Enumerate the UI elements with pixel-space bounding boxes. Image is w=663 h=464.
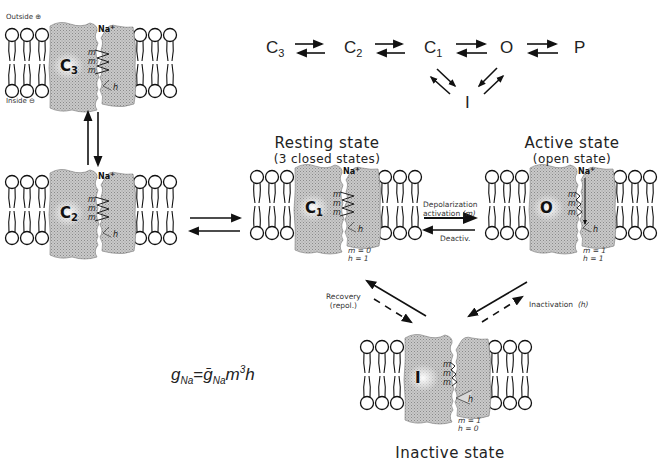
m-gate-label: m	[88, 48, 96, 57]
deactivation-label: Deactiv.	[440, 234, 470, 243]
channel-i: Immmh	[361, 334, 532, 424]
channel-c1: C1mmmhNa+	[251, 164, 422, 254]
m-gate-label: m	[88, 204, 96, 213]
depolarization-label: Depolarization activation (m)	[423, 200, 478, 218]
m-gate-label: m	[88, 66, 96, 75]
m-gate-label: m	[568, 208, 576, 217]
m-gate-label: m	[88, 195, 96, 204]
recovery-label: Recovery (repol.)	[326, 292, 361, 310]
channel-state-label: I	[415, 369, 421, 387]
inactivation-arrows	[469, 282, 527, 322]
active-state-subtitle: (open state)	[507, 152, 637, 166]
h-gate-label: h	[593, 225, 598, 234]
h-gate-label: h	[358, 225, 363, 234]
channel-c2: C2mmmhNa+	[6, 169, 177, 259]
scheme-state-c3: C3	[266, 38, 284, 59]
m-gate-label: m	[443, 369, 451, 378]
m-gate-label: m	[568, 199, 576, 208]
gate-values-i: m = 1h = 0	[458, 417, 481, 433]
gate-values-o: m = 1h = 1	[583, 247, 606, 263]
h-gate-label: h	[468, 395, 473, 404]
scheme-state-c2: C2	[344, 38, 362, 59]
gate-values-c1: m = 0h = 1	[348, 247, 371, 263]
conductance-formula: gNa=ḡNam3h	[171, 364, 255, 386]
h-gate-label: h	[113, 83, 118, 92]
m-gate-label: m	[333, 190, 341, 199]
inactivation-label: Inactivation (h)	[529, 300, 589, 309]
m-gate-label: m	[88, 213, 96, 222]
outside-label: Outside ⊕	[6, 13, 41, 22]
scheme-state-p: P	[574, 38, 585, 58]
m-gate-label: m	[443, 378, 451, 387]
activation-arrows	[424, 218, 475, 230]
resting-state-subtitle: (3 closed states)	[262, 152, 392, 166]
inside-label: Inside ⊖	[6, 97, 35, 106]
m-gate-label: m	[333, 208, 341, 217]
channel-o: OmmmhNa+	[486, 164, 657, 254]
channels-layer: C3mmmhNa+C2mmmhNa+C1mmmhNa+OmmmhNa+Immmh	[6, 22, 657, 424]
inactive-state-title: Inactive state	[385, 444, 515, 462]
diagram-canvas: C3mmmhNa+C2mmmhNa+C1mmmhNa+OmmmhNa+Immmh	[0, 0, 663, 464]
scheme-state-c1: C1	[424, 38, 442, 59]
scheme-state-i: I	[465, 93, 470, 113]
recovery-arrows	[367, 281, 426, 322]
h-gate-label: h	[113, 230, 118, 239]
m-gate-label: m	[568, 190, 576, 199]
active-state-title: Active state	[507, 134, 637, 152]
resting-state-title: Resting state	[262, 134, 392, 152]
m-gate-label: m	[88, 57, 96, 66]
c2-c1-arrows	[190, 218, 240, 231]
scheme-state-o: O	[500, 38, 513, 58]
m-gate-label: m	[443, 360, 451, 369]
channel-state-label: O	[540, 199, 553, 217]
m-gate-label: m	[333, 199, 341, 208]
c3-c2-arrows	[88, 112, 98, 165]
